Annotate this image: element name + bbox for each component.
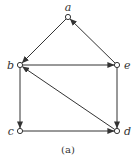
node-label-a: a (65, 1, 72, 14)
node-labels: abecd (7, 1, 131, 138)
node-label-d: d (124, 125, 131, 138)
node-label-c: c (8, 125, 14, 138)
edges (20, 19, 117, 131)
node-b (17, 62, 22, 67)
node-c (17, 128, 22, 133)
figure-caption: (a) (61, 144, 75, 155)
node-e (114, 62, 119, 67)
edge-a-b (22, 19, 66, 63)
node-d (114, 128, 119, 133)
node-label-b: b (7, 59, 14, 72)
node-label-e: e (124, 59, 131, 72)
directed-graph: abecd (a) (0, 0, 136, 161)
node-a (65, 14, 70, 19)
edge-d-b (22, 66, 115, 129)
edge-e-a (70, 19, 115, 63)
